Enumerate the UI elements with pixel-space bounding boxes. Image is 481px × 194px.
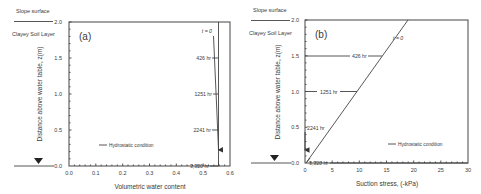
panel-label-a: (a) bbox=[79, 31, 91, 42]
svg-text:0.1: 0.1 bbox=[92, 170, 100, 176]
svg-text:1.5: 1.5 bbox=[291, 53, 299, 59]
svg-text:t = 0: t = 0 bbox=[202, 28, 212, 34]
svg-text:0.5: 0.5 bbox=[291, 124, 299, 130]
legend-label-b: Hydrostatic condition bbox=[398, 142, 443, 147]
soil-layer-label: Clayey Soil Layer bbox=[12, 31, 55, 37]
t0-label-b: t = 0 bbox=[393, 35, 403, 41]
figure-canvas: Slope surface Clayey Soil Layer Distance… bbox=[0, 0, 481, 194]
svg-text:5: 5 bbox=[331, 167, 334, 173]
x-axis-title-b: Suction stress, (-kPa) bbox=[356, 180, 418, 188]
svg-text:0.0: 0.0 bbox=[54, 163, 62, 169]
svg-text:0.4: 0.4 bbox=[172, 170, 180, 176]
svg-text:426 hr: 426 hr bbox=[196, 55, 211, 61]
svg-text:20: 20 bbox=[411, 167, 417, 173]
svg-text:25: 25 bbox=[438, 167, 444, 173]
svg-text:0.2: 0.2 bbox=[119, 170, 127, 176]
soil-layer-label-b: Clayey Soil Layer bbox=[249, 30, 292, 36]
panel-label-b: (b) bbox=[315, 29, 327, 40]
y-axis-title-b: Distance above water table, z(m) bbox=[274, 44, 282, 139]
svg-text:2241 hr: 2241 hr bbox=[193, 127, 211, 133]
svg-text:2.0: 2.0 bbox=[291, 17, 299, 23]
svg-text:3,320 hr: 3,320 hr bbox=[190, 163, 209, 169]
slope-surface-label: Slope surface bbox=[16, 8, 50, 14]
y-axis-title-a: Distance above water table, z(m) bbox=[36, 46, 44, 141]
x-ticks-b: 0 5 10 15 20 25 30 bbox=[303, 161, 471, 174]
panel-a: Slope surface Clayey Soil Layer Distance… bbox=[12, 8, 234, 190]
svg-text:0: 0 bbox=[303, 167, 306, 173]
label-3320hr-b: 3,320 hr bbox=[309, 160, 328, 166]
water-table-icon bbox=[34, 158, 43, 164]
label-426hr-b: 426 hr bbox=[352, 53, 367, 59]
transient-curve-a bbox=[214, 36, 219, 150]
svg-text:1251 hr: 1251 hr bbox=[194, 91, 212, 97]
svg-text:30: 30 bbox=[465, 167, 471, 173]
svg-text:0.0: 0.0 bbox=[291, 160, 299, 166]
panel-b: Slope surface Clayey Soil Layer Distance… bbox=[249, 7, 471, 188]
x-axis-title-a: Volumetric water content bbox=[114, 183, 185, 190]
label-1251hr-b: 1251 hr bbox=[320, 89, 338, 95]
svg-text:2.0: 2.0 bbox=[54, 19, 62, 25]
svg-text:0.3: 0.3 bbox=[146, 170, 154, 176]
svg-text:0.5: 0.5 bbox=[199, 170, 207, 176]
svg-text:0.0: 0.0 bbox=[65, 170, 73, 176]
svg-text:0.5: 0.5 bbox=[54, 127, 62, 133]
svg-text:10: 10 bbox=[356, 167, 362, 173]
water-table-icon-b bbox=[270, 155, 279, 161]
svg-text:0.6: 0.6 bbox=[226, 170, 234, 176]
legend-label-a: Hydrostatic condition bbox=[109, 143, 154, 148]
slope-surface-label-b: Slope surface bbox=[253, 7, 287, 13]
svg-text:1.0: 1.0 bbox=[54, 91, 62, 97]
label-2241hr-b: 2241 hr bbox=[307, 125, 325, 131]
svg-text:1.0: 1.0 bbox=[291, 89, 299, 95]
svg-text:15: 15 bbox=[383, 167, 389, 173]
svg-text:1.5: 1.5 bbox=[54, 55, 62, 61]
